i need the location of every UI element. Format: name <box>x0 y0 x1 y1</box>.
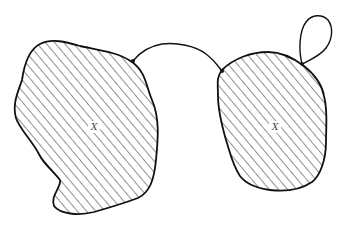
loop-junction-point <box>300 62 304 66</box>
left-region <box>0 0 180 228</box>
right-region <box>180 0 361 228</box>
left-junction-point <box>131 59 135 63</box>
right-region-label: X <box>269 121 281 133</box>
left-region-label: X <box>88 121 100 133</box>
self-loop <box>300 16 332 64</box>
connecting-arc <box>133 43 222 71</box>
diagram-canvas <box>0 0 361 228</box>
right-junction-point <box>220 69 224 73</box>
